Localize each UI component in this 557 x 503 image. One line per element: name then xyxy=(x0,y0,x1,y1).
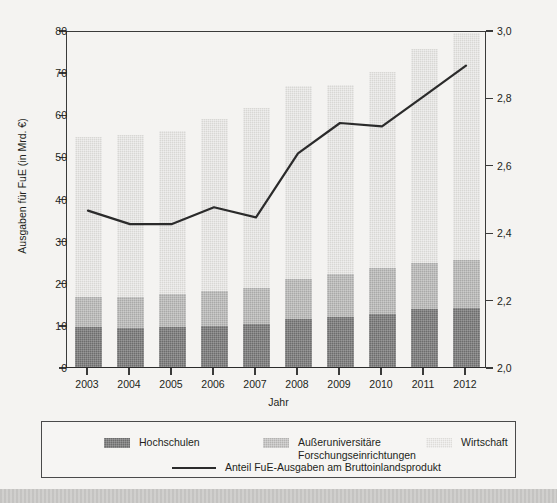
bar-2008[interactable] xyxy=(285,86,312,367)
x-axis-tick-label-2006: 2006 xyxy=(193,378,233,390)
y-axis-left-tick-label: 50 xyxy=(39,152,67,162)
bar-segment xyxy=(159,294,186,327)
x-axis-tickmark xyxy=(212,368,213,375)
bar-2006[interactable] xyxy=(201,119,228,367)
y-axis-left-tick-label: 80 xyxy=(39,26,67,36)
y-axis-right-tickmark xyxy=(486,367,493,368)
x-axis-tick-label-2012: 2012 xyxy=(445,378,485,390)
x-axis-tick-label-2010: 2010 xyxy=(361,378,401,390)
bar-2003[interactable] xyxy=(75,137,102,367)
bar-segment xyxy=(201,119,228,291)
bar-segment xyxy=(369,268,396,314)
legend-item-ausseruniversitaere: Außeruniversitäre Forschungseinrichtunge… xyxy=(263,436,416,461)
y-axis-left-title: Ausgaben für FuE (in Mrd. €) xyxy=(16,76,28,296)
bar-segment xyxy=(327,317,354,367)
bar-segment xyxy=(327,85,354,274)
bar-2004[interactable] xyxy=(117,135,144,367)
x-axis-tick-label-2009: 2009 xyxy=(319,378,359,390)
bar-segment xyxy=(201,291,228,326)
bar-2007[interactable] xyxy=(243,108,270,367)
x-axis-tick-label-2011: 2011 xyxy=(403,378,443,390)
x-axis-tick-label-2008: 2008 xyxy=(277,378,317,390)
legend-item-anteil-bip: Anteil FuE-Ausgaben am Bruttoinlandsprod… xyxy=(172,461,441,474)
decorative-bottom-band xyxy=(0,489,557,503)
legend-label-hochschulen: Hochschulen xyxy=(139,436,200,449)
y-axis-right-tick-label: 3,0 xyxy=(497,26,531,36)
y-axis-right-tickmark xyxy=(486,30,493,31)
y-axis-right-tick-label: 2,4 xyxy=(497,228,531,238)
legend-swatch-ausseruniversitaere xyxy=(263,438,289,448)
bar-segment xyxy=(117,135,144,297)
y-axis-left-tick-label: 0 xyxy=(39,363,67,373)
bar-2009[interactable] xyxy=(327,85,354,367)
x-axis-tickmark xyxy=(296,368,297,375)
x-axis-tickmark xyxy=(254,368,255,375)
y-axis-left-tick-label: 70 xyxy=(39,68,67,78)
legend-item-hochschulen: Hochschulen xyxy=(104,436,200,449)
bar-segment xyxy=(285,86,312,279)
bar-segment xyxy=(243,108,270,288)
y-axis-left-tick-label: 20 xyxy=(39,279,67,289)
y-axis-left-tick-label: 60 xyxy=(39,110,67,120)
x-axis-tickmark xyxy=(86,368,87,375)
bar-segment xyxy=(453,33,480,260)
bar-segment xyxy=(411,49,438,263)
legend-label-wirtschaft: Wirtschaft xyxy=(461,436,508,449)
bar-segment xyxy=(75,137,102,297)
y-axis-right-tickmark xyxy=(486,165,493,166)
bar-segment xyxy=(117,328,144,367)
bar-segment xyxy=(243,288,270,324)
y-axis-right-tick-label: 2,2 xyxy=(497,296,531,306)
legend-label-ausseruniversitaere: Außeruniversitäre Forschungseinrichtunge… xyxy=(298,436,416,461)
x-axis-tickmark xyxy=(422,368,423,375)
x-axis-tickmark xyxy=(380,368,381,375)
y-axis-right-tickmark xyxy=(486,98,493,99)
bar-segment xyxy=(75,297,102,328)
bar-segment xyxy=(369,314,396,367)
bar-segment xyxy=(243,324,270,367)
plot-area xyxy=(66,31,486,368)
bar-segment xyxy=(159,131,186,294)
y-axis-right-tickmark xyxy=(486,300,493,301)
chart-figure: 01020304050607080 2,02,22,42,62,83,0 200… xyxy=(0,0,557,503)
bar-segment xyxy=(285,319,312,367)
y-axis-left-tick-label: 10 xyxy=(39,321,67,331)
bar-segment xyxy=(117,297,144,328)
bar-2011[interactable] xyxy=(411,49,438,367)
bar-2005[interactable] xyxy=(159,131,186,367)
bar-segment xyxy=(285,279,312,319)
y-axis-left-tick-label: 40 xyxy=(39,195,67,205)
bar-group xyxy=(67,32,485,367)
y-axis-right-tick-label: 2,6 xyxy=(497,161,531,171)
bar-segment xyxy=(453,308,480,367)
x-axis-title: Jahr xyxy=(0,396,557,408)
legend-label-anteil-bip: Anteil FuE-Ausgaben am Bruttoinlandsprod… xyxy=(225,461,441,474)
bar-segment xyxy=(201,326,228,367)
x-axis-tickmark xyxy=(464,368,465,375)
x-axis-tickmark xyxy=(128,368,129,375)
x-axis-tick-label-2004: 2004 xyxy=(109,378,149,390)
x-axis-tick-label-2007: 2007 xyxy=(235,378,275,390)
y-axis-right-tick-label: 2,8 xyxy=(497,93,531,103)
bar-segment xyxy=(75,327,102,367)
bar-segment xyxy=(327,274,354,317)
bar-segment xyxy=(369,72,396,267)
bar-segment xyxy=(453,260,480,308)
y-axis-right-tick-label: 2,0 xyxy=(497,363,531,373)
bar-segment xyxy=(411,309,438,367)
legend-line-swatch xyxy=(172,467,216,469)
legend-swatch-hochschulen xyxy=(104,438,130,448)
bar-2012[interactable] xyxy=(453,33,480,367)
x-axis-tick-label-2003: 2003 xyxy=(67,378,107,390)
chart-legend: Hochschulen Außeruniversitäre Forschungs… xyxy=(41,421,516,478)
bar-segment xyxy=(411,263,438,309)
y-axis-right-tickmark xyxy=(486,233,493,234)
legend-swatch-wirtschaft xyxy=(426,438,452,448)
y-axis-left-tick-label: 30 xyxy=(39,237,67,247)
x-axis-tick-label-2005: 2005 xyxy=(151,378,191,390)
bar-2010[interactable] xyxy=(369,72,396,367)
x-axis-tickmark xyxy=(170,368,171,375)
bar-segment xyxy=(159,327,186,367)
legend-item-wirtschaft: Wirtschaft xyxy=(426,436,508,449)
x-axis-tickmark xyxy=(338,368,339,375)
